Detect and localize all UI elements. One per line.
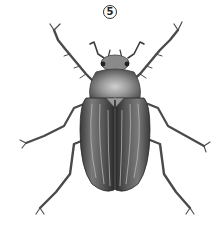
beetle-illustration <box>0 0 217 230</box>
left-eye <box>101 62 106 67</box>
right-eye <box>125 62 130 67</box>
hind-left-leg <box>40 140 84 208</box>
left-elytron <box>80 98 114 191</box>
front-left-leg <box>54 30 96 84</box>
hind-right-leg <box>150 140 190 208</box>
middle-right-leg <box>148 104 204 146</box>
pronotum <box>90 69 141 101</box>
right-elytron <box>116 98 150 191</box>
middle-left-leg <box>26 104 84 143</box>
